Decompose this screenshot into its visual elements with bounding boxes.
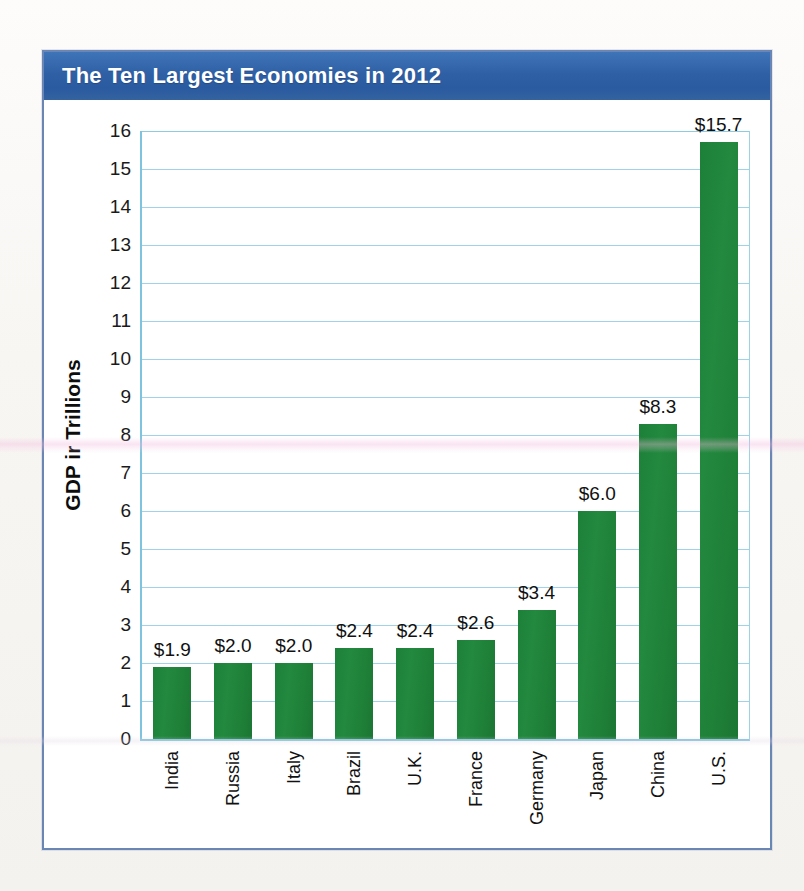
x-axis-category-label-text: India [162, 751, 183, 790]
y-axis-tick-label: 15 [110, 158, 131, 180]
bar-value-label: $3.4 [518, 582, 555, 604]
bar-slot: $2.4Brazil [324, 131, 385, 739]
x-axis-category-label: U.K. [415, 751, 450, 772]
y-axis-tick-label: 4 [120, 576, 131, 598]
x-axis-category-label-text: China [647, 751, 668, 798]
y-axis-tick-label: 2 [120, 652, 131, 674]
bar-value-label: $6.0 [579, 483, 616, 505]
y-axis-tick-label: 5 [120, 538, 131, 560]
x-axis-category-label: Brazil [354, 751, 399, 772]
bar-slot: $8.3China [628, 131, 689, 739]
plot-area: $1.9India$2.0Russia$2.0Italy$2.4Brazil$2… [140, 131, 750, 741]
y-axis-tick-label: 11 [111, 310, 131, 332]
x-axis-category-label: Italy [294, 751, 327, 772]
bar-value-label: $15.7 [695, 114, 743, 136]
x-axis-category-label-text: Russia [223, 751, 244, 806]
bar-value-label: $2.4 [397, 620, 434, 642]
y-axis-tick-label: 6 [120, 500, 131, 522]
x-axis-category-label-text: Italy [283, 751, 304, 784]
bar-value-label: $1.9 [154, 639, 191, 661]
bar[interactable] [153, 667, 191, 739]
bar-value-label: $2.0 [275, 635, 312, 657]
y-axis-tick-label: 16 [110, 120, 131, 142]
bar-value-label: $8.3 [639, 396, 676, 418]
y-axis-tick-label: 8 [120, 424, 131, 446]
bar[interactable] [457, 640, 495, 739]
bar-slot: $2.6France [446, 131, 507, 739]
bar[interactable] [639, 424, 677, 739]
bar-slot: $1.9India [142, 131, 203, 739]
bar-slot: $2.0Russia [203, 131, 264, 739]
bar-series: $1.9India$2.0Russia$2.0Italy$2.4Brazil$2… [142, 131, 749, 739]
bar[interactable] [700, 142, 738, 739]
y-axis-title: GDP ir Trillions [58, 131, 88, 739]
x-axis-category-label-text: Germany [526, 751, 547, 825]
bar-slot: $15.7U.S. [688, 131, 749, 739]
y-axis-tick-label: 14 [110, 196, 131, 218]
x-axis-category-label: U.S. [719, 751, 754, 772]
x-axis-category-label-text: France [465, 751, 486, 807]
y-axis-tick-label: 3 [120, 614, 131, 636]
x-axis-category-label: India [172, 751, 211, 772]
x-axis-category-label: France [476, 751, 532, 772]
y-axis-tick-label: 7 [120, 462, 131, 484]
x-axis-category-label-text: Brazil [344, 751, 365, 796]
y-axis-tick-label: 1 [120, 690, 131, 712]
bar[interactable] [518, 610, 556, 739]
y-axis-tick-label: 10 [110, 348, 131, 370]
x-axis-category-label-text: U.S. [708, 751, 729, 786]
bar-slot: $2.0Italy [263, 131, 324, 739]
bar-slot: $3.4Germany [506, 131, 567, 739]
bar-value-label: $2.4 [336, 620, 373, 642]
x-axis-category-label-text: U.K. [405, 751, 426, 786]
bar-slot: $2.4U.K. [385, 131, 446, 739]
x-axis-category-label: Russia [233, 751, 288, 772]
chart-title-bar: The Ten Largest Economies in 2012 [44, 52, 770, 100]
bar-slot: $6.0Japan [567, 131, 628, 739]
y-axis-title-text: GDP ir Trillions [61, 359, 85, 510]
y-axis-tick-label: 12 [110, 272, 131, 294]
chart-figure: The Ten Largest Economies in 2012 GDP ir… [42, 50, 772, 850]
y-axis-tick-label: 9 [120, 386, 131, 408]
y-axis-tick-label: 13 [110, 234, 131, 256]
x-axis-category-label: China [658, 751, 705, 772]
bar[interactable] [578, 511, 616, 739]
bar[interactable] [214, 663, 252, 739]
x-axis-category-label-text: Japan [587, 751, 608, 800]
bar[interactable] [396, 648, 434, 739]
bar-value-label: $2.0 [215, 635, 252, 657]
plot-wrapper: GDP ir Trillions $1.9India$2.0Russia$2.0… [44, 100, 770, 848]
bar[interactable] [275, 663, 313, 739]
y-axis-tick-label: 0 [120, 728, 131, 750]
bar-value-label: $2.6 [457, 612, 494, 634]
x-axis-category-label: Japan [597, 751, 646, 772]
bar[interactable] [335, 648, 373, 739]
chart-title: The Ten Largest Economies in 2012 [62, 63, 441, 89]
